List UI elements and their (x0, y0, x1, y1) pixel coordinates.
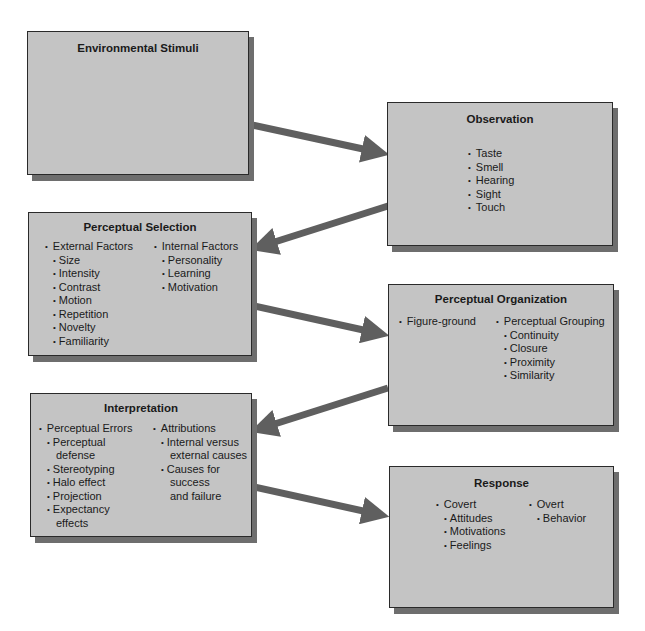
attributions-list: Attributions Internal versus external ca… (153, 422, 247, 503)
covert-list: Covert Attitudes Motivations Feelings (436, 498, 505, 552)
list-item: Taste (468, 147, 514, 161)
list-item: Touch (468, 201, 514, 215)
list-item: Projection (39, 490, 132, 504)
list-item: Perceptual (39, 436, 132, 450)
list-heading: Internal Factors (154, 240, 238, 254)
internal-factors-list: Internal Factors Personality Learning Mo… (154, 240, 238, 294)
list-item-continuation: external causes (153, 449, 247, 463)
list-item: Similarity (496, 369, 605, 383)
list-item: Proximity (496, 356, 605, 370)
list-item: Behavior (529, 512, 586, 526)
list-item: Causes for (153, 463, 247, 477)
list-item: Motivation (154, 281, 238, 295)
list-item-continuation: effects (39, 517, 132, 531)
list-item: Feelings (436, 539, 505, 553)
list-item: Sight (468, 188, 514, 202)
node-title: Perceptual Organization (389, 293, 613, 305)
list-item-continuation: success (153, 476, 247, 490)
list-item: Smell (468, 161, 514, 175)
node-environmental-stimuli: Environmental Stimuli (27, 31, 249, 175)
list-item: Internal versus (153, 436, 247, 450)
list-item: Motivations (436, 525, 505, 539)
list-item: Repetition (45, 308, 133, 322)
list-item: Intensity (45, 267, 133, 281)
list-item: Familiarity (45, 335, 133, 349)
node-perceptual-selection: Perceptual Selection External Factors Si… (28, 212, 252, 356)
list-heading: Attributions (153, 422, 247, 436)
arrow-interpretation-to-response (254, 487, 377, 514)
sense-list: Taste Smell Hearing Sight Touch (468, 147, 514, 215)
list-item: Stereotyping (39, 463, 132, 477)
node-perceptual-organization: Perceptual Organization Figure-ground Pe… (388, 284, 614, 426)
perceptual-errors-list: Perceptual Errors Perceptual defense Ste… (39, 422, 132, 530)
list-item: Closure (496, 342, 605, 356)
list-item: Continuity (496, 329, 605, 343)
node-title: Perceptual Selection (29, 221, 251, 233)
arrow-observation-to-selection (262, 206, 388, 246)
list-heading: Covert (436, 498, 505, 512)
list-heading: External Factors (45, 240, 133, 254)
node-title: Observation (388, 113, 612, 125)
node-response: Response Covert Attitudes Motivations Fe… (389, 466, 614, 608)
external-factors-list: External Factors Size Intensity Contrast… (45, 240, 133, 348)
arrow-selection-to-organization (254, 306, 377, 333)
list-item: Motion (45, 294, 133, 308)
list-item: Attitudes (436, 512, 505, 526)
list-item: Personality (154, 254, 238, 268)
arrow-env-to-observation (252, 125, 377, 152)
arrow-organization-to-interpretation (262, 388, 388, 428)
list-item-continuation: defense (39, 449, 132, 463)
overt-list: Overt Behavior (529, 498, 586, 525)
list-heading: Figure-ground (399, 315, 476, 329)
list-heading: Perceptual Errors (39, 422, 132, 436)
list-item: Contrast (45, 281, 133, 295)
perceptual-grouping-list: Perceptual Grouping Continuity Closure P… (496, 315, 605, 383)
list-item: Hearing (468, 174, 514, 188)
node-title: Environmental Stimuli (28, 42, 248, 54)
list-item: Expectancy (39, 503, 132, 517)
list-item: Novelty (45, 321, 133, 335)
list-heading: Overt (529, 498, 586, 512)
figure-ground-list: Figure-ground (399, 315, 476, 329)
list-item-continuation: and failure (153, 490, 247, 504)
node-observation: Observation Taste Smell Hearing Sight To… (387, 102, 613, 246)
list-item: Halo effect (39, 476, 132, 490)
node-interpretation: Interpretation Perceptual Errors Percept… (30, 393, 252, 537)
list-item: Learning (154, 267, 238, 281)
node-title: Interpretation (31, 402, 251, 414)
list-heading: Perceptual Grouping (496, 315, 605, 329)
node-title: Response (390, 477, 613, 489)
list-item: Size (45, 254, 133, 268)
